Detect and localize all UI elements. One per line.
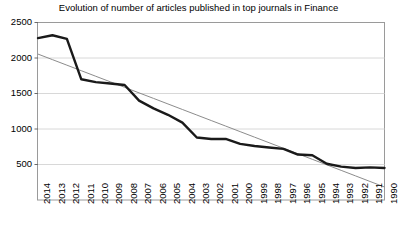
x-axis-tick-label: 1995 [317, 182, 327, 203]
x-axis-tick-label: 2005 [172, 182, 182, 203]
x-axis-tick-label: 2004 [187, 182, 197, 203]
x-axis-tick-label: 1994 [331, 182, 341, 203]
x-axis-tick-label: 2011 [86, 183, 96, 203]
x-axis-tick-label: 2006 [158, 182, 168, 203]
x-axis-tick-label: 2000 [244, 182, 254, 203]
x-axis-tick-label: 2009 [114, 182, 124, 203]
x-axis-tick-label: 1992 [360, 182, 370, 203]
x-axis-tick-label: 2001 [230, 182, 240, 203]
x-axis-tick-label: 2014 [42, 182, 52, 203]
x-axis-tick-label: 1993 [345, 182, 355, 203]
x-axis-tick-label: 1990 [389, 182, 399, 203]
x-axis-tick-label: 2008 [129, 182, 139, 203]
x-axis-tick-label: 1997 [288, 182, 298, 203]
x-axis-tick-label: 2007 [143, 182, 153, 203]
x-axis-tick-label: 1996 [302, 182, 312, 203]
x-axis-tick-label: 1999 [259, 182, 269, 203]
x-axis-tick-label: 2012 [71, 182, 81, 203]
x-axis-tick-label: 1991 [374, 182, 384, 203]
x-axis-tick-label: 2013 [57, 182, 67, 203]
x-axis-tick-label: 2003 [201, 182, 211, 203]
x-axis-tick-label: 2002 [215, 182, 225, 203]
x-axis-tick-label: 2010 [100, 182, 110, 203]
x-axis-tick-label: 1998 [273, 182, 283, 203]
